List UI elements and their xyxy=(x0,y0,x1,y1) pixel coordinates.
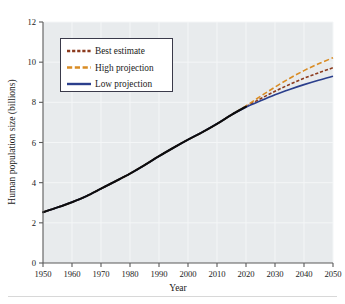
legend-label-low-projection: Low projection xyxy=(95,79,152,89)
x-tick-label: 1960 xyxy=(63,269,80,279)
x-tick-label: 1990 xyxy=(150,269,167,279)
chart-legend: Best estimateHigh projectionLow projecti… xyxy=(61,39,173,92)
legend-label-best-estimate: Best estimate xyxy=(95,46,145,56)
y-tick-label: 4 xyxy=(32,178,37,188)
x-tick-label: 1980 xyxy=(121,269,138,279)
footer-divider xyxy=(8,296,337,297)
x-tick-label: 2010 xyxy=(208,269,225,279)
x-axis-title: Year xyxy=(169,283,187,293)
x-tick-label: 1970 xyxy=(92,269,109,279)
x-tick-label: 2000 xyxy=(179,269,196,279)
y-tick-label: 2 xyxy=(32,218,36,228)
y-tick-label: 10 xyxy=(27,57,36,67)
y-tick-label: 12 xyxy=(27,17,36,27)
x-tick-label: 2040 xyxy=(295,269,312,279)
population-projection-figure: 024681012 195019601970198019902000201020… xyxy=(0,0,345,304)
y-tick-label: 6 xyxy=(32,138,37,148)
y-axis-title: Human population size (billions) xyxy=(7,79,18,204)
x-tick-label: 1950 xyxy=(34,269,51,279)
x-tick-label: 2030 xyxy=(266,269,283,279)
population-line-chart: 024681012 195019601970198019902000201020… xyxy=(0,0,345,304)
y-tick-label: 8 xyxy=(32,97,36,107)
x-tick-label: 2020 xyxy=(237,269,254,279)
legend-label-high-projection: High projection xyxy=(95,63,154,73)
y-tick-label: 0 xyxy=(32,258,36,268)
x-tick-label: 2050 xyxy=(324,269,341,279)
